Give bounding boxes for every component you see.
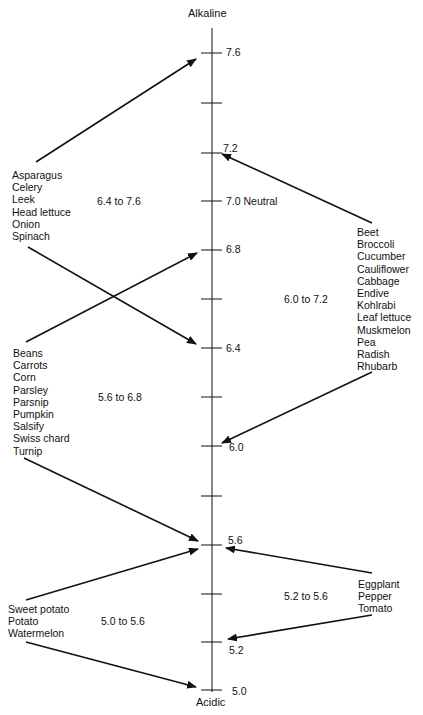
tick-label-6-8: 6.8 (226, 243, 241, 255)
list-item: Eggplant (358, 578, 399, 590)
list-item: Cucumber (357, 250, 411, 262)
list-item: Corn (13, 371, 70, 383)
range-label: 5.0 to 5.6 (101, 615, 145, 627)
list-item: Swiss chard (13, 432, 70, 444)
list-item: Watermelon (8, 627, 69, 639)
list-item: Leek (12, 193, 71, 205)
group-5-6-to-6-8: Beans Carrots Corn Parsley Parsnip Pumpk… (13, 347, 70, 457)
tick-label-6-0: 6.0 (229, 441, 244, 453)
arrow-g5-top (26, 549, 198, 600)
tick-label-7-6: 7.6 (226, 46, 241, 58)
list-item: Cauliflower (357, 263, 411, 275)
arrow-g4-bottom (228, 615, 372, 639)
tick-label-6-4: 6.4 (226, 342, 241, 354)
arrow-g1-top (36, 59, 196, 162)
range-label: 5.6 to 6.8 (98, 391, 142, 403)
list-item: Broccoli (357, 238, 411, 250)
group-6-4-to-7-6: Asparagus Celery Leek Head lettuce Onion… (12, 169, 71, 242)
arrow-g2-top (222, 154, 372, 223)
group-5-2-to-5-6: Eggplant Pepper Tomato (358, 578, 399, 615)
arrow-g1-bottom (28, 247, 196, 344)
list-item: Pea (357, 336, 411, 348)
list-item: Cabbage (357, 275, 411, 287)
group-5-0-to-5-6: Sweet potato Potato Watermelon (8, 603, 69, 640)
list-item: Tomato (358, 602, 399, 614)
list-item: Potato (8, 615, 69, 627)
tick-label-7-2: 7.2 (223, 142, 238, 154)
neutral-label: Neutral (244, 195, 278, 207)
tick-label-5-2: 5.2 (229, 644, 244, 656)
alkaline-label: Alkaline (188, 7, 227, 19)
list-item: Salsify (13, 420, 70, 432)
tick-label-5-6: 5.6 (228, 534, 243, 546)
list-item: Onion (12, 218, 71, 230)
list-item: Asparagus (12, 169, 71, 181)
list-item: Pepper (358, 590, 399, 602)
arrow-g3-bottom (24, 458, 198, 541)
list-item: Head lettuce (12, 206, 71, 218)
list-item: Sweet potato (8, 603, 69, 615)
list-item: Kohlrabi (357, 299, 411, 311)
list-item: Parsnip (13, 396, 70, 408)
list-item: Celery (12, 181, 71, 193)
tick-label-5-0: 5.0 (232, 685, 247, 697)
list-item: Radish (357, 348, 411, 360)
list-item: Leaf lettuce (357, 311, 411, 323)
range-label: 6.4 to 7.6 (97, 195, 141, 207)
tick-value: 7.0 (226, 195, 241, 207)
list-item: Turnip (13, 445, 70, 457)
list-item: Beet (357, 226, 411, 238)
list-item: Spinach (12, 230, 71, 242)
range-label: 6.0 to 7.2 (284, 293, 328, 305)
arrow-g5-bottom (26, 642, 196, 687)
arrow-g4-top (226, 548, 372, 573)
list-item: Pumpkin (13, 408, 70, 420)
list-item: Parsley (13, 384, 70, 396)
tick-label-7-0: 7.0 Neutral (226, 195, 277, 207)
group-6-0-to-7-2: Beet Broccoli Cucumber Cauliflower Cabba… (357, 226, 411, 372)
range-label: 5.2 to 5.6 (284, 590, 328, 602)
list-item: Beans (13, 347, 70, 359)
list-item: Endive (357, 287, 411, 299)
arrow-g3-top (26, 253, 197, 342)
arrow-g2-bottom (222, 372, 372, 443)
list-item: Rhubarb (357, 360, 411, 372)
list-item: Muskmelon (357, 324, 411, 336)
list-item: Carrots (13, 359, 70, 371)
acidic-label: Acidic (196, 696, 225, 708)
